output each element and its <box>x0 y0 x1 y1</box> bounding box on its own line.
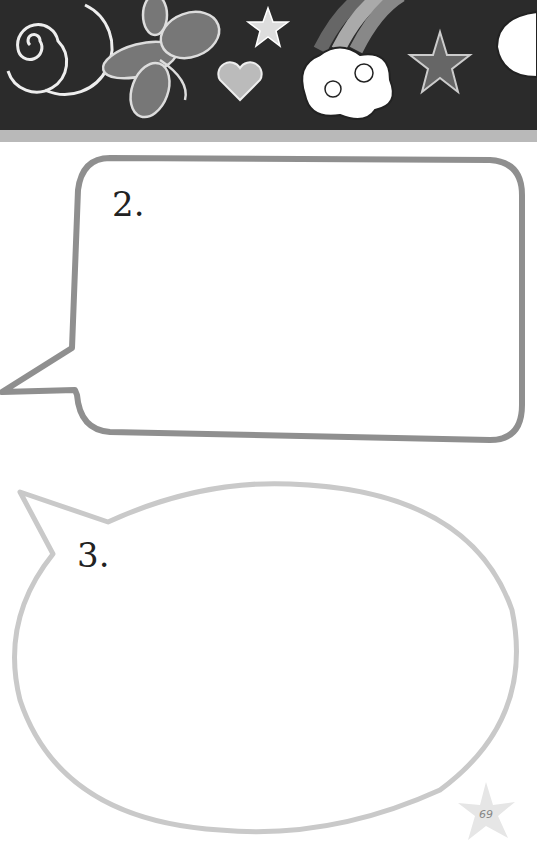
star-icon <box>410 32 470 92</box>
butterfly-icon <box>99 0 226 122</box>
page-number: 69 <box>479 808 493 821</box>
bubble-label-2: 2. <box>112 184 144 224</box>
cloud-icon <box>302 48 393 120</box>
page-artwork <box>0 0 537 863</box>
star-icon <box>248 8 288 46</box>
bubble-label-3: 3. <box>77 535 109 575</box>
speech-bubble-2[interactable] <box>2 158 522 440</box>
cloud-icon <box>497 12 537 77</box>
spiral-icon <box>8 5 112 94</box>
rainbow-icon <box>320 0 401 50</box>
heart-icon <box>218 62 261 100</box>
